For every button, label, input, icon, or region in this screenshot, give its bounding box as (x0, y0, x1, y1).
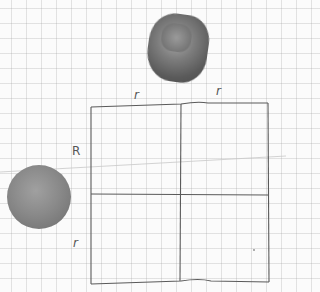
square-right-edge (268, 103, 269, 282)
label-left-R: R (72, 144, 80, 158)
label-top-right-r: r (216, 84, 221, 98)
sphere-shape (7, 165, 71, 229)
diagram-canvas: r r R r (0, 0, 286, 292)
horizontal-divider (91, 194, 268, 195)
square-top-edge (91, 102, 268, 107)
label-left-r: r (73, 236, 78, 250)
square-grid-sketch (0, 0, 286, 292)
vertical-divider (180, 104, 181, 281)
label-top-left-r: r (134, 88, 139, 102)
cube-face (160, 22, 194, 54)
dot-mark (253, 249, 255, 251)
